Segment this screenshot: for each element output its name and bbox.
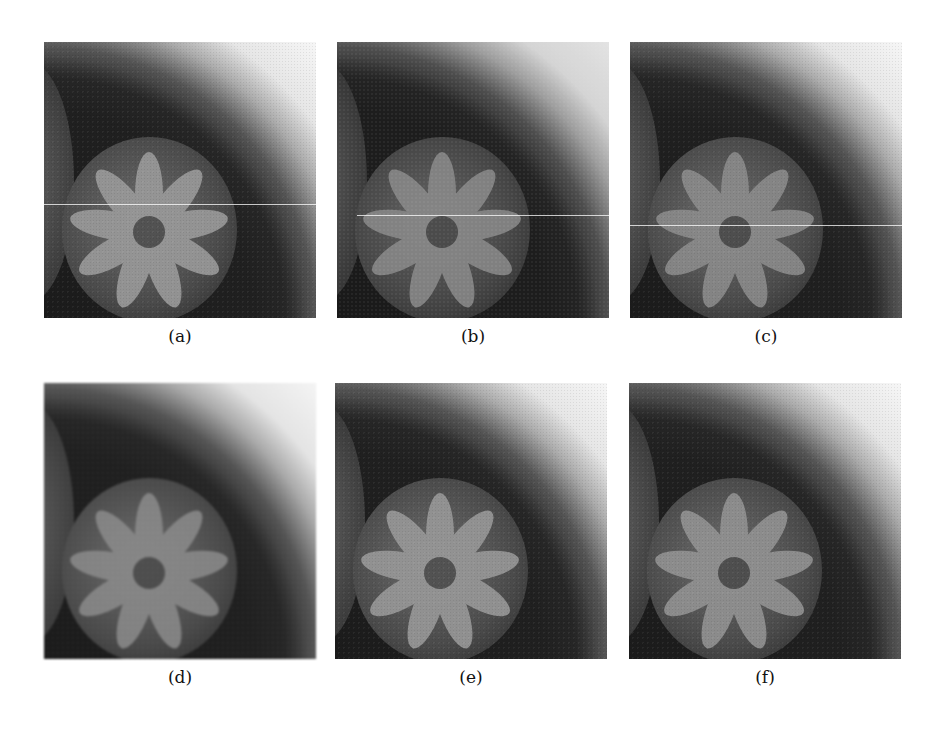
panel-a-image	[44, 42, 316, 318]
panel-label-e: (e)	[335, 667, 607, 687]
panel-label-a: (a)	[44, 326, 316, 346]
panel-b: (b)	[337, 42, 609, 346]
panel-label-c: (c)	[630, 326, 902, 346]
panel-a: (a)	[44, 42, 316, 346]
scanline-artifact	[357, 215, 609, 216]
scanline-artifact	[44, 204, 316, 205]
panel-label-d: (d)	[44, 667, 316, 687]
panel-c: (c)	[630, 42, 902, 346]
panel-d-image	[44, 383, 316, 659]
panel-f-image	[629, 383, 901, 659]
panel-b-image	[337, 42, 609, 318]
panel-e: (e)	[335, 383, 607, 687]
panel-label-b: (b)	[337, 326, 609, 346]
panel-c-image	[630, 42, 902, 318]
panel-f: (f)	[629, 383, 901, 687]
scanline-artifact	[630, 225, 902, 226]
panel-d: (d)	[44, 383, 316, 687]
panel-e-image	[335, 383, 607, 659]
panel-label-f: (f)	[629, 667, 901, 687]
